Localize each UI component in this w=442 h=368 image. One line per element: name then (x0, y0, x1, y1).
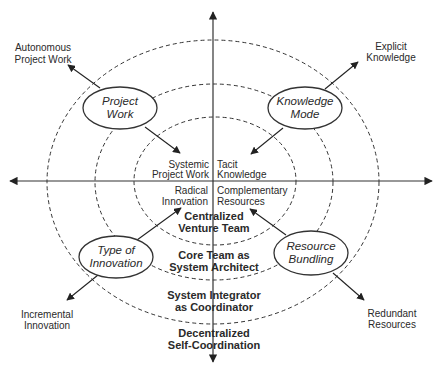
svg-text:Innovation: Innovation (162, 196, 208, 207)
node-label-line1: Project (102, 95, 139, 107)
node-label-line2: Innovation (89, 257, 142, 269)
svg-text:Autonomous: Autonomous (15, 42, 71, 53)
node-knowledge-mode: Knowledge Mode (268, 87, 342, 129)
arrow-explicit-knowledge (325, 62, 358, 89)
ring-label-system-integrator: System Integrator as Coordinator (167, 289, 261, 313)
label-tacit-knowledge: Tacit Knowledge (217, 159, 267, 180)
svg-text:Redundant: Redundant (368, 308, 417, 319)
arrow-systemic-project-work (145, 127, 180, 153)
node-label-line1: Resource (286, 240, 335, 252)
svg-text:System Architect: System Architect (169, 261, 259, 273)
svg-text:Incremental: Incremental (21, 309, 73, 320)
svg-text:Decentralized: Decentralized (178, 327, 250, 339)
node-label-line1: Type of (97, 244, 136, 256)
svg-text:Knowledge: Knowledge (217, 169, 267, 180)
svg-text:System Integrator: System Integrator (167, 289, 261, 301)
svg-text:Centralized: Centralized (184, 210, 243, 222)
svg-text:Venture Team: Venture Team (178, 222, 250, 234)
svg-text:Radical: Radical (175, 185, 208, 196)
label-complementary-resources: Complementary Resources (217, 185, 288, 207)
label-radical-innovation: Radical Innovation (162, 185, 208, 207)
label-incremental-innovation: Incremental Innovation (21, 309, 73, 331)
arrow-autonomous-project-work (68, 65, 100, 88)
arrow-tacit-knowledge (251, 128, 283, 154)
label-autonomous-project-work: Autonomous Project Work (14, 42, 72, 65)
label-redundant-resources: Redundant Resources (368, 308, 417, 330)
arrow-complementary-resources (250, 209, 286, 235)
svg-text:Complementary: Complementary (217, 185, 288, 196)
svg-text:Innovation: Innovation (24, 320, 70, 331)
svg-text:Resources: Resources (368, 319, 416, 330)
svg-text:Core Team as: Core Team as (178, 249, 249, 261)
node-label-line2: Mode (291, 108, 320, 120)
svg-text:Project Work: Project Work (152, 169, 210, 180)
svg-text:as Coordinator: as Coordinator (175, 301, 254, 313)
label-systemic-project-work: Systemic Project Work (152, 159, 210, 180)
svg-text:Explicit: Explicit (375, 41, 407, 52)
ring-label-core-team: Core Team as System Architect (169, 249, 259, 273)
node-label-line1: Knowledge (277, 95, 334, 107)
node-resource-bundling: Resource Bundling (274, 231, 348, 275)
svg-text:Knowledge: Knowledge (366, 52, 416, 63)
svg-text:Self-Coordination: Self-Coordination (168, 339, 261, 351)
organization-diagram: Project Work Knowledge Mode Type of Inno… (0, 0, 442, 368)
arrow-radical-innovation (137, 208, 181, 240)
ring-label-centralized-venture-team: Centralized Venture Team (178, 210, 250, 234)
arrow-redundant-resources (333, 273, 364, 300)
node-type-of-innovation: Type of Innovation (79, 236, 153, 278)
node-label-line2: Bundling (289, 253, 334, 265)
ring-label-decentralized: Decentralized Self-Coordination (168, 327, 261, 351)
svg-text:Resources: Resources (217, 196, 265, 207)
node-label-line2: Work (107, 108, 135, 120)
label-explicit-knowledge: Explicit Knowledge (366, 41, 416, 63)
node-project-work: Project Work (83, 87, 157, 129)
svg-text:Project Work: Project Work (14, 54, 72, 65)
arrow-incremental-innovation (67, 275, 98, 300)
